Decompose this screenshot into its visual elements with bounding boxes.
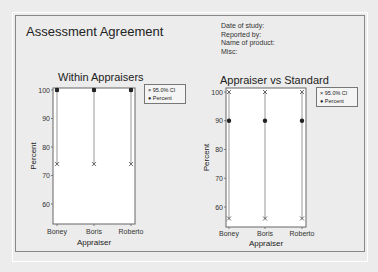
legend-within: × 95.0% CI ● Percent <box>144 84 186 104</box>
ci-marker-icon: × <box>148 87 151 93</box>
y-axis-label: Percent <box>29 141 38 169</box>
y-tick-label: 70 <box>215 175 223 182</box>
percent-point <box>55 88 59 92</box>
x-tick-label: Roberto <box>119 228 144 235</box>
x-axis-label: Appraiser <box>77 238 112 247</box>
ci-marker-icon: × <box>320 90 323 96</box>
percent-point <box>300 119 304 123</box>
x-axis-label: Appraiser <box>249 239 284 248</box>
percent-point <box>263 119 267 123</box>
legend-vs-standard: × 95.0% CI ● Percent <box>316 87 358 107</box>
x-tick-label: Boris <box>257 230 273 237</box>
y-tick-label: 70 <box>42 172 50 179</box>
charts-canvas: 60708090100BoneyBorisRobertoAppraiserPer… <box>0 0 378 272</box>
y-axis-label: Percent <box>202 143 211 171</box>
y-tick-label: 90 <box>215 117 223 124</box>
percent-point <box>227 119 231 123</box>
y-tick-label: 100 <box>38 87 50 94</box>
plot-area <box>226 88 306 227</box>
percent-marker-icon: ● <box>148 95 151 101</box>
y-tick-label: 60 <box>42 201 50 208</box>
percent-point <box>129 88 133 92</box>
y-tick-label: 60 <box>215 204 223 211</box>
x-tick-label: Boney <box>47 228 67 236</box>
x-tick-label: Boney <box>219 230 239 238</box>
y-tick-label: 80 <box>42 144 50 151</box>
x-tick-label: Boris <box>86 228 102 235</box>
percent-marker-icon: ● <box>320 98 323 104</box>
percent-point <box>92 88 96 92</box>
x-tick-label: Roberto <box>290 230 315 237</box>
y-tick-label: 100 <box>211 89 223 96</box>
y-tick-label: 90 <box>42 115 50 122</box>
y-tick-label: 80 <box>215 146 223 153</box>
